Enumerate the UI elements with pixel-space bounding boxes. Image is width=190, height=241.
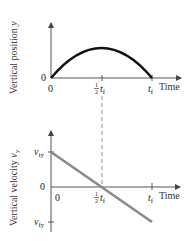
velocity-viy-label: viy — [34, 146, 44, 159]
velocity-x-title: Time — [159, 190, 180, 201]
position-half-tf-label: 1 2 tf — [94, 82, 106, 96]
velocity-tf-label: tf — [148, 192, 154, 205]
position-x-title: Time — [159, 81, 180, 92]
velocity-half-tf-label: 1 2 tf — [94, 191, 106, 205]
svg-text:tf: tf — [100, 83, 106, 96]
position-tf-label: tf — [148, 83, 154, 96]
velocity-x-zero-label: 0 — [55, 192, 60, 203]
velocity-y-title: Vertical velocity vy — [8, 149, 21, 226]
velocity-vfy-label: vfy — [34, 216, 45, 229]
position-graph: Vertical position y 0 0 1 2 tf tf Time — [8, 21, 181, 96]
svg-text:tf: tf — [100, 192, 106, 205]
svg-text:1: 1 — [95, 191, 98, 197]
svg-text:1: 1 — [95, 82, 98, 88]
position-y-title: Vertical position y — [8, 21, 19, 94]
projectile-motion-diagram: Vertical position y 0 0 1 2 tf tf Time V… — [0, 0, 190, 241]
velocity-graph: Vertical velocity vy viy 0 vfy 0 1 2 tf … — [8, 131, 180, 232]
position-y-zero-label: 0 — [41, 72, 46, 83]
position-curve — [51, 48, 152, 78]
velocity-y-zero-label: 0 — [40, 181, 45, 192]
svg-text:2: 2 — [95, 198, 98, 204]
position-x-zero-label: 0 — [48, 83, 53, 94]
svg-text:2: 2 — [95, 89, 98, 95]
